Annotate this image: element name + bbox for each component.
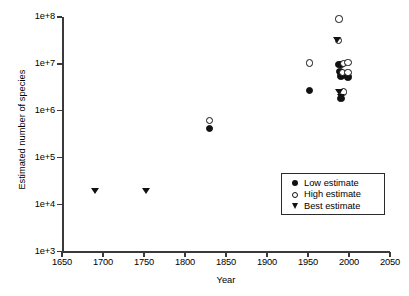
x-tick-label: 2050 bbox=[370, 258, 409, 267]
y-tick-label: 1e+6 bbox=[9, 106, 55, 115]
data-point-best bbox=[337, 94, 345, 100]
x-tick-label: 1950 bbox=[288, 258, 328, 267]
x-tick-label: 1900 bbox=[247, 258, 287, 267]
data-point-best bbox=[91, 188, 99, 194]
y-tick bbox=[57, 157, 62, 158]
x-axis-title: Year bbox=[62, 276, 390, 285]
chart-legend: Low estimateHigh estimateBest estimate bbox=[281, 173, 385, 215]
y-tick bbox=[57, 63, 62, 64]
species-estimate-scatter-chart: 1e+31e+41e+51e+61e+71e+8 165017001750180… bbox=[0, 0, 409, 296]
data-point-high bbox=[344, 59, 351, 66]
data-point-high bbox=[335, 15, 342, 22]
y-tick bbox=[57, 110, 62, 111]
legend-marker-icon bbox=[289, 192, 301, 198]
legend-marker-icon bbox=[289, 180, 301, 186]
x-tick-label: 1700 bbox=[83, 258, 123, 267]
data-point-best bbox=[142, 188, 150, 194]
data-point-high bbox=[306, 59, 313, 66]
y-tick-label: 1e+5 bbox=[9, 153, 55, 162]
y-tick-label: 1e+4 bbox=[9, 200, 55, 209]
y-tick bbox=[57, 204, 62, 205]
x-tick-label: 2000 bbox=[329, 258, 369, 267]
data-point-best bbox=[333, 37, 341, 43]
data-point-high bbox=[206, 117, 213, 124]
data-point-low bbox=[206, 125, 213, 132]
x-tick-label: 1750 bbox=[124, 258, 164, 267]
legend-item: Low estimate bbox=[282, 178, 384, 190]
y-tick-label: 1e+3 bbox=[9, 247, 55, 256]
y-axis-title: Estimated number of species bbox=[18, 45, 27, 215]
y-tick-label: 1e+8 bbox=[9, 12, 55, 21]
x-tick-label: 1650 bbox=[42, 258, 82, 267]
y-tick bbox=[57, 16, 62, 17]
legend-item-label: Low estimate bbox=[304, 179, 359, 188]
legend-item-label: Best estimate bbox=[304, 202, 360, 211]
legend-item-label: High estimate bbox=[304, 190, 361, 199]
y-tick-label: 1e+7 bbox=[9, 59, 55, 68]
x-tick-label: 1850 bbox=[206, 258, 246, 267]
x-tick-label: 1800 bbox=[165, 258, 205, 267]
legend-item: Best estimate bbox=[282, 201, 384, 213]
data-point-low bbox=[306, 87, 313, 94]
legend-item: High estimate bbox=[282, 189, 384, 201]
y-axis-line bbox=[62, 17, 64, 253]
legend-marker-icon bbox=[289, 203, 301, 209]
